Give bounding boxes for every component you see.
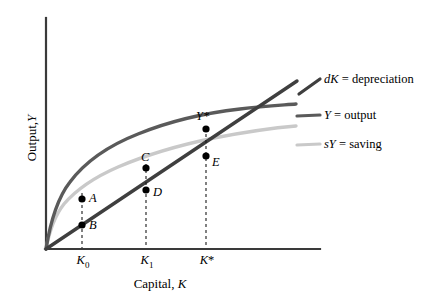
- y-axis-title-variable: Y: [24, 115, 39, 122]
- legend-text-saving: = saving: [336, 137, 382, 151]
- x-tick-k1-base: K: [141, 253, 149, 267]
- point-D: [142, 186, 149, 193]
- x-tick-k1-sub: 1: [149, 260, 154, 270]
- x-axis-title-text: Capital,: [134, 276, 175, 291]
- legend-var-saving: sY: [324, 137, 336, 151]
- point-label-D: D: [153, 185, 162, 200]
- plot-canvas: [0, 0, 440, 304]
- legend-label-output: Y = output: [324, 108, 376, 123]
- solow-model-figure: Output,Y Capital, K K0 K1 K* A B C D Y* …: [0, 0, 440, 304]
- x-tick-k0-base: K: [77, 253, 85, 267]
- curve-saving: [46, 126, 296, 249]
- point-E: [202, 152, 209, 159]
- legend-line-depreciation: [299, 79, 320, 94]
- legend-var-output: Y: [324, 108, 331, 122]
- axes-group: [45, 18, 320, 249]
- y-axis-title-text: Output,: [24, 122, 39, 161]
- legend-var-depreciation: dK: [324, 72, 339, 86]
- legend-line-saving: [297, 144, 320, 145]
- point-label-Ystar: Y*: [196, 109, 209, 124]
- point-A: [78, 195, 85, 202]
- x-tick-label-kstar: K*: [194, 253, 220, 268]
- legend-label-depreciation: dK = depreciation: [324, 72, 414, 87]
- x-tick-k0-sub: 0: [85, 260, 90, 270]
- point-label-E: E: [212, 155, 220, 170]
- legend-line-output: [297, 115, 320, 116]
- point-label-C: C: [141, 150, 149, 165]
- x-tick-label-k0: K0: [70, 253, 96, 270]
- x-axis-title: Capital, K: [100, 276, 220, 292]
- point-label-B: B: [89, 218, 97, 233]
- x-axis-title-variable: K: [178, 276, 187, 291]
- legend-text-output: = output: [331, 108, 376, 122]
- legend-text-depreciation: = depreciation: [339, 72, 414, 86]
- legend-lines-group: [297, 79, 320, 145]
- x-tick-label-k1: K1: [134, 253, 160, 270]
- point-C: [142, 164, 149, 171]
- point-Ystar: [202, 125, 209, 132]
- x-tick-kstar-sub: *: [208, 253, 214, 267]
- x-tick-kstar-base: K: [200, 253, 208, 267]
- y-axis-title: Output,Y: [24, 93, 40, 183]
- point-B: [78, 221, 85, 228]
- point-label-A: A: [89, 191, 97, 206]
- legend-label-saving: sY = saving: [324, 137, 382, 152]
